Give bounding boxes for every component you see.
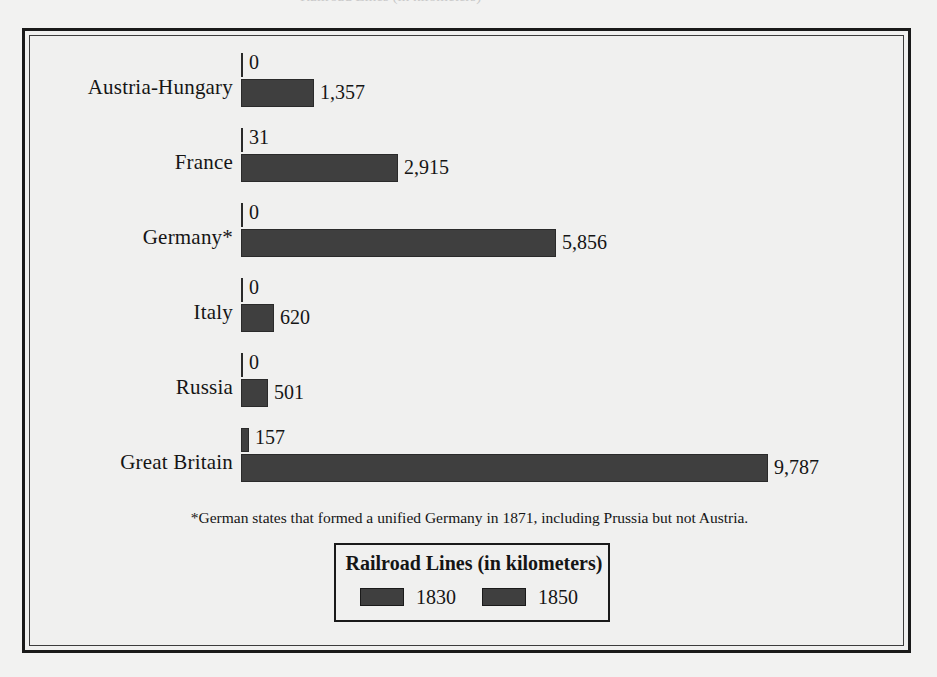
bar-1850 [241,79,314,107]
bar-group: Germany*05,856 [25,203,914,271]
legend-label-1830: 1830 [416,585,456,609]
bar-group: Russia0501 [25,353,914,421]
legend-label-1850: 1850 [538,585,578,609]
category-label: Great Britain [25,450,233,474]
legend-swatch-1850-icon [482,588,526,606]
bar-1830 [241,53,243,77]
bar-value-label: 9,787 [774,456,819,478]
bar-1850 [241,304,274,332]
bar-1830 [241,428,249,452]
bar-value-label: 0 [249,351,259,373]
category-label: Austria-Hungary [25,75,233,99]
chart-footnote: *German states that formed a unified Ger… [25,509,914,527]
bar-value-label: 157 [255,426,285,448]
scan-top-sliver: Railroad Lines (in kilometers) [0,0,937,14]
bar-1830 [241,128,243,152]
bar-value-label: 2,915 [404,156,449,178]
bar-value-label: 620 [280,306,310,328]
bar-value-label: 31 [249,126,269,148]
bar-1850 [241,154,398,182]
scan-ghost-text: Railroad Lines (in kilometers) [300,0,481,5]
bar-1830 [241,353,243,377]
bar-value-label: 1,357 [320,81,365,103]
chart-frame: Austria-Hungary01,357France312,915German… [22,28,911,653]
category-label: Italy [25,300,233,324]
bar-value-label: 5,856 [562,231,607,253]
bar-value-label: 0 [249,201,259,223]
category-label: Germany* [25,225,233,249]
legend-title: Railroad Lines (in kilometers) [336,551,612,575]
bar-value-label: 0 [249,51,259,73]
bar-group: France312,915 [25,128,914,196]
bar-value-label: 501 [274,381,304,403]
bar-1850 [241,454,768,482]
bar-group: Austria-Hungary01,357 [25,53,914,121]
bar-value-label: 0 [249,276,259,298]
category-label: France [25,150,233,174]
bar-1850 [241,379,268,407]
bar-1850 [241,229,556,257]
category-label: Russia [25,375,233,399]
legend-swatch-1830-icon [360,588,404,606]
bar-group: Great Britain1579,787 [25,428,914,496]
chart-legend: Railroad Lines (in kilometers) 1830 1850 [334,543,610,622]
bar-group: Italy0620 [25,278,914,346]
bar-1830 [241,278,243,302]
bar-1830 [241,203,243,227]
